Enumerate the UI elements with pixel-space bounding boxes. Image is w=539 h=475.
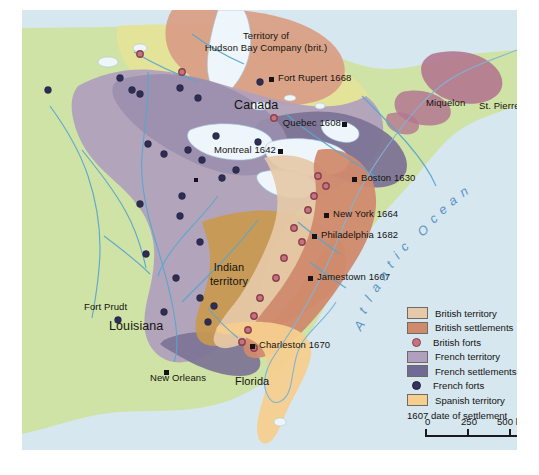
map-scale-bar: 0 250 500 km bbox=[425, 416, 517, 437]
label-montreal: Montreal 1642 bbox=[204, 144, 276, 155]
scale-tick-0: 0 bbox=[425, 416, 430, 427]
legend-item-spanish-territory: Spanish territory bbox=[407, 393, 517, 408]
marker-montreal bbox=[278, 149, 283, 154]
scale-bar-line bbox=[425, 435, 517, 437]
marker-fort-prudt bbox=[194, 178, 198, 182]
legend-label-french-settlements: French settlements bbox=[435, 366, 517, 377]
label-hudson-territory-line1: Territory of bbox=[206, 30, 326, 41]
legend-swatch-spanish-territory bbox=[407, 394, 428, 406]
map-frame: Territory of Hudson Bay Company (brit.) … bbox=[22, 10, 517, 450]
scale-tick-labels: 0 250 500 km bbox=[425, 416, 517, 428]
marker-quebec bbox=[342, 122, 347, 127]
scale-tick-mark-500 bbox=[509, 429, 511, 437]
scale-tick-250: 250 bbox=[461, 416, 477, 427]
scale-tick-mark-0 bbox=[425, 429, 427, 437]
legend-label-spanish-territory: Spanish territory bbox=[435, 395, 505, 406]
marker-philadelphia bbox=[312, 234, 317, 239]
historical-map-figure: Territory of Hudson Bay Company (brit.) … bbox=[0, 0, 539, 475]
label-fort-prudt: Fort Prudt bbox=[84, 301, 127, 312]
map-legend: British territory British settlements Br… bbox=[407, 306, 517, 421]
legend-label-french-forts: French forts bbox=[433, 380, 484, 391]
legend-item-french-territory: French territory bbox=[407, 350, 517, 365]
label-jamestown: Jamestown 1607 bbox=[317, 271, 390, 282]
label-philadelphia: Philadelphia 1682 bbox=[321, 229, 398, 240]
label-louisiana: Louisiana bbox=[109, 321, 163, 332]
legend-item-french-settlements: French settlements bbox=[407, 364, 517, 379]
label-charleston: Charleston 1670 bbox=[259, 339, 330, 350]
scale-tick-mark-250 bbox=[467, 429, 469, 437]
legend-item-british-territory: British territory bbox=[407, 306, 517, 321]
label-hudson-territory-line2: Hudson Bay Company (brit.) bbox=[176, 42, 356, 53]
british-fort-icon bbox=[412, 338, 421, 347]
label-florida: Florida bbox=[235, 376, 269, 387]
label-quebec: Quebec 1608 bbox=[281, 117, 341, 128]
label-indian-territory-line2: territory bbox=[194, 276, 264, 287]
label-boston: Boston 1630 bbox=[361, 172, 415, 183]
legend-swatch-french-settlements bbox=[407, 365, 428, 377]
marker-jamestown bbox=[308, 276, 313, 281]
legend-label-french-territory: French territory bbox=[435, 351, 500, 362]
label-canada: Canada bbox=[234, 100, 278, 111]
label-indian-territory-line1: Indian bbox=[194, 262, 264, 273]
french-fort-icon bbox=[412, 381, 421, 390]
legend-item-french-forts: French forts bbox=[407, 379, 517, 394]
legend-label-british-forts: British forts bbox=[433, 337, 481, 348]
marker-boston bbox=[352, 177, 357, 182]
legend-swatch-british-territory bbox=[407, 307, 428, 319]
marker-charleston bbox=[250, 344, 255, 349]
marker-new-york bbox=[324, 213, 329, 218]
legend-dot-wrap-french-forts bbox=[407, 381, 426, 390]
legend-swatch-british-settlements bbox=[407, 322, 428, 334]
legend-item-british-forts: British forts bbox=[407, 335, 517, 350]
label-new-orleans: New Orleans bbox=[150, 372, 206, 383]
legend-label-british-settlements: British settlements bbox=[435, 322, 513, 333]
legend-swatch-french-territory bbox=[407, 351, 428, 363]
label-fort-rupert: Fort Rupert 1668 bbox=[278, 72, 351, 83]
label-st-pierre: St. Pierre bbox=[479, 100, 517, 111]
label-miquelon: Miquelon bbox=[426, 97, 465, 108]
marker-fort-rupert bbox=[269, 77, 274, 82]
legend-dot-wrap-british-forts bbox=[407, 338, 426, 347]
legend-label-british-territory: British territory bbox=[435, 308, 497, 319]
scale-bar-graphic bbox=[425, 429, 517, 437]
legend-item-british-settlements: British settlements bbox=[407, 321, 517, 336]
scale-tick-500: 500 km bbox=[497, 416, 517, 427]
label-new-york: New York 1664 bbox=[333, 208, 398, 219]
